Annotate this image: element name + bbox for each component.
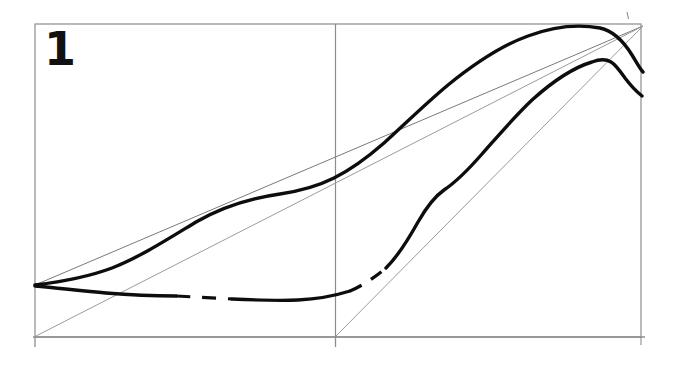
center-reference-line [336, 26, 643, 336]
upper-reference-line [35, 26, 643, 285]
middle-heavy-curve-dash-1 [176, 296, 232, 299]
panel-number-label: 1 [44, 26, 75, 72]
middle-heavy-curve-segment-1 [35, 286, 176, 296]
lower-reference-line [36, 26, 643, 336]
middle-heavy-curve-segment-3 [386, 60, 642, 268]
hand-drawn-line-chart [0, 0, 675, 366]
middle-heavy-curve-dash-2 [350, 268, 386, 291]
figure-panel: 1 [0, 0, 675, 366]
middle-heavy-curve-segment-2 [232, 291, 350, 300]
corner-tick-mark [627, 12, 629, 19]
